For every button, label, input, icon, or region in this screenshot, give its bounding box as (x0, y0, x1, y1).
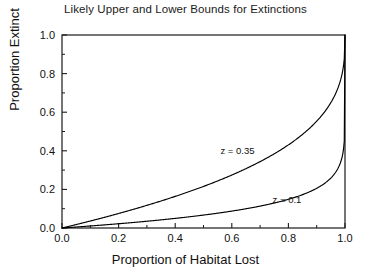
y-tick-label: 1.0 (40, 29, 55, 41)
x-tick-label: 0.8 (281, 232, 296, 244)
x-tick-label: 0.4 (168, 232, 183, 244)
extinction-bounds-figure: Likely Upper and Lower Bounds for Extinc… (0, 0, 371, 278)
curve-0-1 (62, 35, 345, 228)
curve-0-35 (62, 35, 345, 228)
y-tick-label: 0.8 (40, 68, 55, 80)
plot-area: 0.00.20.40.60.81.00.00.20.40.60.81.0z = … (0, 0, 371, 278)
y-tick-label: 0.4 (40, 145, 55, 157)
x-tick-label: 1.0 (337, 232, 352, 244)
x-tick-label: 0.0 (54, 232, 69, 244)
y-tick-label: 0.0 (40, 222, 55, 234)
curve-annotation: z = 0.1 (273, 194, 302, 205)
plot-frame (62, 35, 345, 228)
y-tick-label: 0.6 (40, 106, 55, 118)
y-tick-label: 0.2 (40, 183, 55, 195)
x-tick-label: 0.2 (111, 232, 126, 244)
curve-annotation: z = 0.35 (220, 145, 254, 156)
x-tick-label: 0.6 (224, 232, 239, 244)
